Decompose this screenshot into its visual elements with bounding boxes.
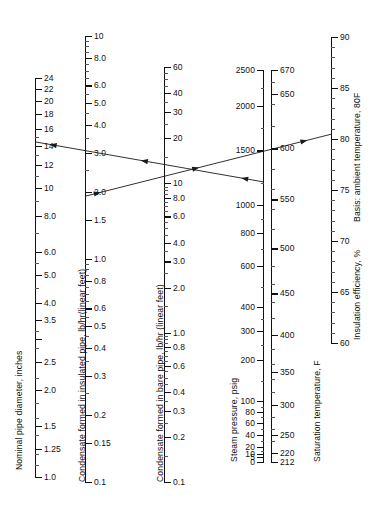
line-descending <box>36 142 264 182</box>
axis-major-tick <box>35 146 42 147</box>
axis-tick-label: 1000 <box>236 201 255 210</box>
axis-tick-label: 22 <box>44 85 54 94</box>
axis-minor-tick <box>35 155 39 156</box>
axis-tick-label: 500 <box>280 244 294 253</box>
axis-minor-tick <box>164 202 168 203</box>
axis-minor-tick <box>85 52 89 53</box>
axis-tick-label: 0.8 <box>173 343 185 352</box>
axis-saturation-temperature: 670650600550500450400350300250220212 <box>271 70 272 462</box>
axis-major-tick <box>85 259 92 260</box>
axis-minor-tick <box>331 282 335 283</box>
axis-major-tick <box>331 292 338 293</box>
axis-major-tick <box>164 243 171 244</box>
axis-tick-label: 8.0 <box>44 212 56 221</box>
axis-tick-label: 600 <box>280 144 294 153</box>
axis-tick-label: 0.4 <box>173 388 185 397</box>
axis-major-tick <box>35 426 42 427</box>
axis-major-tick <box>331 241 338 242</box>
axis-tick-label: 0.3 <box>173 407 185 416</box>
axis-major-tick <box>257 307 264 308</box>
axis-major-tick <box>164 183 171 184</box>
axis-minor-tick <box>331 129 335 130</box>
axis-major-tick <box>331 343 338 344</box>
axis-major-tick <box>35 78 42 79</box>
axis-tick-label: 5.0 <box>94 99 106 108</box>
axis-minor-tick <box>85 64 89 65</box>
axis-major-tick <box>164 437 171 438</box>
axis-title-condensate-bare: Condensate formed in bare pipe, lb/hr (l… <box>155 284 165 482</box>
axis-tick-label: 10 <box>44 184 54 193</box>
axis-minor-tick <box>85 138 89 139</box>
axis-tick-label: 0.2 <box>173 433 185 442</box>
axis-tick-label: 4.0 <box>94 121 106 130</box>
axis-minor-tick <box>271 441 275 442</box>
direction-arrowhead <box>300 139 307 144</box>
axis-minor-tick <box>261 319 265 320</box>
axis-tick-label: 75 <box>340 186 350 195</box>
axis-major-tick <box>164 482 171 483</box>
axis-tick-label: 600 <box>241 262 255 271</box>
axis-tick-label: 350 <box>280 368 294 377</box>
axis-minor-tick <box>261 441 265 442</box>
axis-major-tick <box>35 477 42 478</box>
axis-tick-label: 65 <box>340 288 350 297</box>
axis-tick-label: 0.8 <box>94 277 106 286</box>
axis-tick-label: 400 <box>280 331 294 340</box>
axis-major-tick <box>331 190 338 191</box>
axis-minor-tick <box>35 418 39 419</box>
axis-tick-label: 3.5 <box>44 316 56 325</box>
axis-minor-tick <box>164 73 168 74</box>
axis-minor-tick <box>35 331 39 332</box>
axis-tick-label: 20 <box>44 97 54 106</box>
axis-tick-label: 2500 <box>236 66 255 75</box>
axis-minor-tick <box>271 318 275 319</box>
direction-arrowhead <box>141 159 148 164</box>
axis-tick-label: 40 <box>245 431 255 440</box>
axis-tick-label: 2.0 <box>94 188 106 197</box>
axis-tick-label: 2000 <box>236 102 255 111</box>
axis-minor-tick <box>35 465 39 466</box>
axis-minor-tick <box>271 349 275 350</box>
axis-major-tick <box>35 101 42 102</box>
axis-minor-tick <box>164 194 168 195</box>
axis-minor-tick <box>331 68 335 69</box>
axis-minor-tick <box>271 429 275 430</box>
axis-minor-tick <box>331 231 335 232</box>
axis-tick-label: 0.15 <box>94 439 111 448</box>
line-ascending <box>86 134 332 196</box>
axis-minor-tick <box>331 200 335 201</box>
axis-minor-tick <box>85 41 89 42</box>
axis-tick-label: 4.0 <box>173 239 185 248</box>
axis-tick-label: 1500 <box>236 146 255 155</box>
axis-tick-label: 1.25 <box>44 445 61 454</box>
axis-minor-tick <box>164 190 168 191</box>
axis-major-tick <box>257 457 264 458</box>
axis-major-tick <box>257 462 264 463</box>
axis-tick-label: 10 <box>173 179 183 188</box>
axis-minor-tick <box>35 176 39 177</box>
axis-minor-tick <box>331 98 335 99</box>
axis-minor-tick <box>164 228 168 229</box>
axis-tick-label: 20 <box>173 134 183 143</box>
axis-tick-label: 1.5 <box>94 216 106 225</box>
axis-minor-tick <box>271 266 275 267</box>
axis-minor-tick <box>164 235 168 236</box>
axis-tick-label: 60 <box>245 419 255 428</box>
axis-minor-tick <box>261 381 265 382</box>
axis-major-tick <box>35 89 42 90</box>
axis-tick-label: 1.0 <box>94 255 106 264</box>
axis-major-tick <box>35 216 42 217</box>
axis-major-tick <box>331 139 338 140</box>
axis-tick-label: 212 <box>280 458 294 467</box>
axis-tick-label: 1.0 <box>44 473 56 482</box>
nomograph-figure: 24222018161412108.06.05.04.03.52.52.01.5… <box>0 0 375 510</box>
axis-minor-tick <box>261 183 265 184</box>
axis-major-tick <box>271 199 278 200</box>
axis-major-tick <box>271 372 278 373</box>
axis-major-tick <box>271 405 278 406</box>
axis-minor-tick <box>85 71 89 72</box>
axis-minor-tick <box>35 137 39 138</box>
axis-tick-label: 6.0 <box>44 248 56 257</box>
axis-major-tick <box>35 129 42 130</box>
axis-minor-tick <box>271 379 275 380</box>
